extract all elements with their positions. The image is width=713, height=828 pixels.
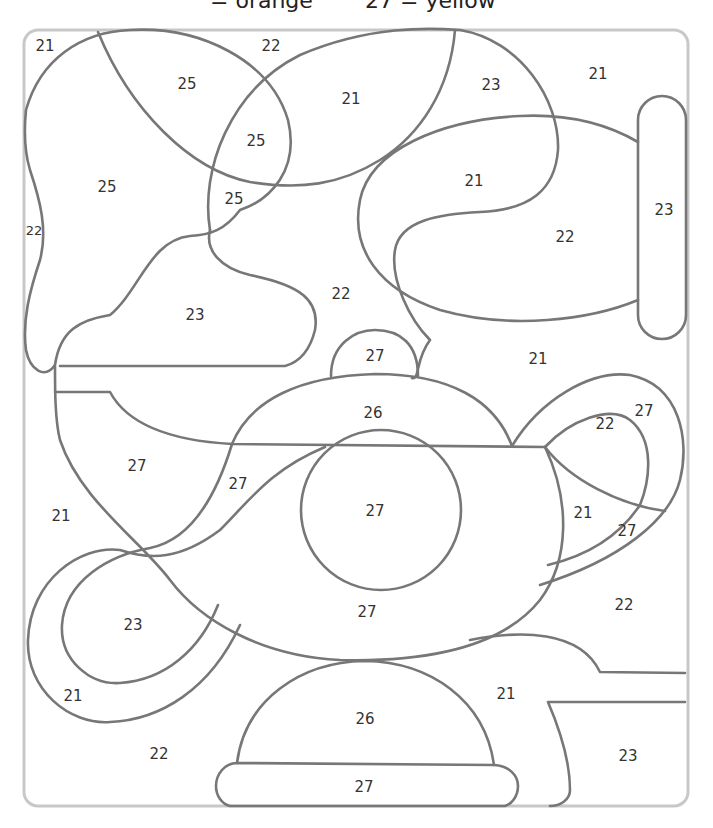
region-number: 27 xyxy=(357,603,376,621)
region-number: 21 xyxy=(51,507,70,525)
region-number: 22 xyxy=(261,37,280,55)
region-number: 21 xyxy=(496,685,515,703)
region-number: 23 xyxy=(123,616,142,634)
region-number: 23 xyxy=(185,306,204,324)
region-number: 21 xyxy=(528,350,547,368)
region-number: 27 xyxy=(365,502,384,520)
region-number: 25 xyxy=(177,75,196,93)
region-number: 27 xyxy=(365,347,384,365)
region-number: 27 xyxy=(617,522,636,540)
outline-shapes xyxy=(25,29,686,806)
region-number: 22 xyxy=(331,285,350,303)
region-number: 27 xyxy=(634,402,653,420)
shape-spout-inner xyxy=(62,444,232,683)
region-number: 23 xyxy=(481,76,500,94)
region-number: 22 xyxy=(149,745,168,763)
region-number: 21 xyxy=(573,504,592,522)
region-number: 22 xyxy=(555,228,574,246)
region-number: 26 xyxy=(363,404,382,422)
region-number: 23 xyxy=(654,201,673,219)
coloring-page: 21 22 25 21 23 21 25 25 25 21 23 22 22 2… xyxy=(0,0,713,828)
shape-left-blob xyxy=(25,30,291,373)
region-number: 22 xyxy=(26,223,43,238)
shape-spout-outer xyxy=(28,447,325,722)
region-number: 22 xyxy=(595,415,614,433)
region-number: 21 xyxy=(341,90,360,108)
region-number: 25 xyxy=(224,190,243,208)
region-number: 21 xyxy=(464,172,483,190)
shape-23-blob xyxy=(60,230,316,366)
region-number: 22 xyxy=(614,596,633,614)
region-number: 26 xyxy=(355,710,374,728)
shape-lid-line xyxy=(55,392,545,447)
region-number: 27 xyxy=(127,457,146,475)
region-number: 27 xyxy=(354,778,373,796)
region-number: 21 xyxy=(63,687,82,705)
shape-shelf-bottom xyxy=(548,702,685,806)
region-number: 21 xyxy=(35,37,54,55)
region-number: 27 xyxy=(228,475,247,493)
region-number: 23 xyxy=(618,747,637,765)
region-number: 21 xyxy=(588,65,607,83)
region-number: 25 xyxy=(246,132,265,150)
shape-shelf-top xyxy=(470,635,685,673)
shape-top-ellipse xyxy=(208,29,558,378)
shape-handle-outer xyxy=(512,374,683,585)
region-number: 25 xyxy=(97,178,116,196)
